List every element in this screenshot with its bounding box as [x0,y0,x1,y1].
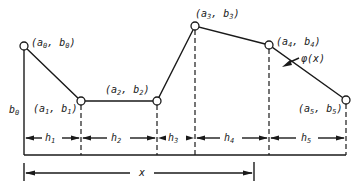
phi-label: φ(x) [301,53,325,64]
x-left-arrow-icon [25,171,35,176]
x-dimension-row: x [24,162,254,181]
point-5 [342,96,350,104]
x-label: x [138,167,145,178]
h2-label: h2 [111,132,121,145]
point-2 [153,97,161,105]
point-3-label: (a3, b3) [195,8,240,21]
point-2-label: (a2, b2) [105,84,150,97]
point-4-label: (a4, b4) [276,36,321,49]
point-1 [77,97,85,105]
x-right-arrow-icon [243,171,253,176]
b0-label: b0 [9,104,19,117]
point-0-label: (a0, b0) [31,37,76,50]
point-3 [191,22,199,30]
piecewise-linear-diagram: (a0, b0) (a1, b1) (a2, b2) (a3, b3) (a4,… [0,0,359,189]
point-0 [20,42,28,50]
diagram-canvas: (a0, b0) (a1, b1) (a2, b2) (a3, b3) (a4,… [0,0,359,189]
h-dimension-row: h1 h2 h3 h4 h5 [25,132,345,145]
h3-label: h3 [168,132,178,145]
point-5-label: (a5, b5) [298,103,343,116]
h1-label: h1 [45,132,55,145]
h4-label: h4 [224,132,234,145]
h5-label: h5 [301,132,311,145]
point-4 [265,41,273,49]
point-1-label: (a1, b1) [33,103,78,116]
